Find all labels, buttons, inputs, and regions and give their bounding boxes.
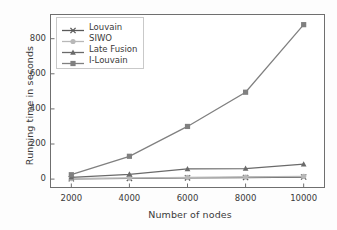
chart-figure: Running time in seconds 0200400600800 Nu… [0,0,337,230]
legend-label: SIWO [89,33,112,43]
legend-label: Louvain [89,22,122,32]
legend-marker-square-icon [61,54,85,65]
y-tick-label: 600 [16,68,46,78]
y-tick-label: 200 [16,138,46,148]
data-point-marker [69,172,74,177]
x-tick-label: 4000 [106,193,152,203]
legend: LouvainSIWOLate FusionI-Louvain [56,17,144,69]
y-axis-ticks: 0200400600800 [14,0,46,230]
legend-label: Late Fusion [89,44,137,54]
legend-item-i-louvain: I-Louvain [61,54,137,65]
x-tick-label: 8000 [223,193,269,203]
y-tick-label: 0 [16,173,46,183]
legend-marker-x-icon [61,21,85,32]
legend-marker-circle-icon [61,32,85,43]
data-point-marker [185,175,190,180]
data-point-marker [70,61,75,66]
x-axis-label: Number of nodes [55,209,325,220]
legend-item-louvain: Louvain [61,21,137,32]
data-point-marker [301,22,306,27]
x-tick-label: 10000 [281,193,327,203]
legend-label: I-Louvain [89,55,128,65]
y-tick-label: 400 [16,103,46,113]
y-tick-label: 800 [16,33,46,43]
legend-item-late-fusion: Late Fusion [61,43,137,54]
x-tick-label: 2000 [48,193,94,203]
data-point-marker [127,154,132,159]
x-tick-label: 6000 [165,193,211,203]
legend-item-siwo: SIWO [61,32,137,43]
data-point-marker [243,174,248,179]
data-point-marker [185,124,190,129]
data-point-marker [243,90,248,95]
data-point-marker [301,174,306,179]
legend-marker-triangle-icon [61,43,85,54]
